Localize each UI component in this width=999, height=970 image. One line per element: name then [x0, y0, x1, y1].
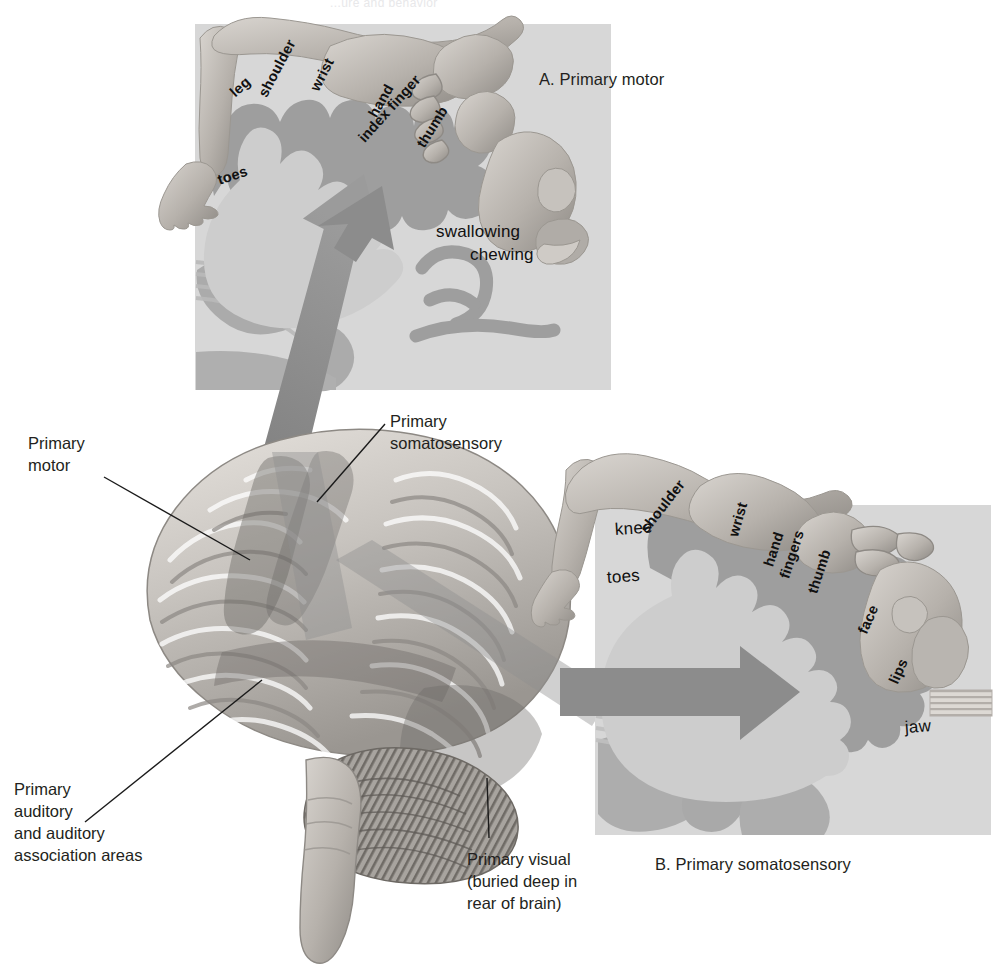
callout-line: motor	[28, 454, 148, 476]
callout-line: (buried deep in	[467, 870, 627, 892]
map-label-swallowing: swallowing	[436, 222, 520, 242]
spinal-cord	[930, 690, 992, 716]
callout-line: association areas	[14, 844, 179, 866]
map-label-toes-b: toes	[606, 566, 640, 588]
brain-cortical-map-figure: ...ure and behavior	[0, 0, 999, 970]
brain-stem	[300, 757, 361, 963]
callout-line: Primary	[14, 778, 179, 800]
panel-b-group	[531, 454, 992, 835]
callout-line: Primary visual	[467, 848, 627, 870]
callout-line: Primary	[28, 432, 148, 454]
callout-line: Primary	[390, 410, 560, 432]
panel-b-caption: B. Primary somatosensory	[655, 855, 851, 874]
callout-line: rear of brain)	[467, 892, 627, 914]
callout-primary-somatosensory: Primary somatosensory	[390, 410, 560, 454]
callout-primary-motor: Primary motor	[28, 432, 148, 476]
callout-primary-visual: Primary visual (buried deep in rear of b…	[467, 848, 627, 914]
map-label-chewing: chewing	[470, 245, 534, 265]
callout-line: and auditory	[14, 822, 179, 844]
map-label-jaw: jaw	[904, 716, 931, 738]
callout-line: auditory	[14, 800, 179, 822]
callout-primary-auditory: Primary auditory and auditory associatio…	[14, 778, 179, 866]
callout-line: somatosensory	[390, 432, 560, 454]
panel-a-caption: A. Primary motor	[539, 70, 664, 89]
